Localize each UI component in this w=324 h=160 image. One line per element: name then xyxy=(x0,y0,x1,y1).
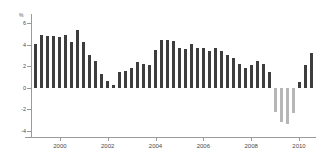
bar xyxy=(268,72,271,88)
bar xyxy=(310,53,313,87)
bar xyxy=(244,68,247,87)
bar xyxy=(46,36,49,87)
bar xyxy=(58,37,61,87)
bar-series xyxy=(0,0,324,160)
bar xyxy=(70,42,73,88)
bar xyxy=(280,88,283,122)
bar xyxy=(178,48,181,88)
chart-container: % 6420-2-4 200020022004200620082010 xyxy=(0,0,324,160)
bar xyxy=(88,55,91,88)
bar xyxy=(232,58,235,88)
bar xyxy=(118,72,121,88)
bar xyxy=(208,51,211,87)
bar xyxy=(64,35,67,88)
bar xyxy=(256,61,259,88)
bar xyxy=(136,62,139,88)
bar xyxy=(196,48,199,88)
bar xyxy=(172,41,175,88)
bar xyxy=(160,40,163,88)
bar xyxy=(142,64,145,88)
bar xyxy=(154,50,157,88)
bar xyxy=(226,55,229,88)
bar xyxy=(298,82,301,87)
bar xyxy=(100,74,103,88)
bar xyxy=(262,64,265,88)
bar xyxy=(292,88,295,114)
bar xyxy=(112,85,115,88)
bar xyxy=(304,65,307,88)
bar xyxy=(214,48,217,88)
bar xyxy=(250,65,253,88)
bar xyxy=(106,81,109,87)
bar xyxy=(166,40,169,88)
bar xyxy=(124,71,127,88)
bar xyxy=(34,44,37,88)
bar xyxy=(148,65,151,88)
bar xyxy=(40,35,43,88)
bar xyxy=(238,64,241,88)
bar xyxy=(190,44,193,88)
bar xyxy=(52,36,55,87)
bar xyxy=(184,49,187,88)
bar xyxy=(202,48,205,88)
bar xyxy=(286,88,289,124)
bar xyxy=(76,30,79,88)
bar xyxy=(274,88,277,113)
bar xyxy=(130,68,133,87)
bar xyxy=(220,51,223,87)
bar xyxy=(94,61,97,88)
bar xyxy=(82,42,85,88)
